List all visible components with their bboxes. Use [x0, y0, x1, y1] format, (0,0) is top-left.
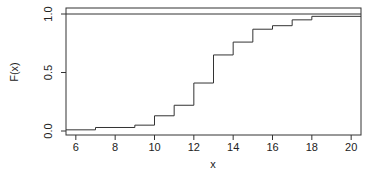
x-tick-label: 6 — [73, 141, 79, 153]
step-series — [66, 16, 361, 129]
x-tick-label: 16 — [266, 141, 278, 153]
y-tick-label: 1.0 — [42, 6, 54, 21]
x-axis-label: x — [210, 158, 216, 170]
y-axis-label: F(x) — [8, 62, 20, 82]
x-tick-label: 12 — [188, 141, 200, 153]
x-tick-label: 10 — [148, 141, 160, 153]
y-axis: 0.00.51.0 — [42, 6, 66, 138]
ecdf-step-chart: 68101214161820 0.00.51.0 x F(x) — [0, 0, 377, 174]
y-tick-label: 0.5 — [42, 65, 54, 80]
x-tick-label: 8 — [112, 141, 118, 153]
y-tick-label: 0.0 — [42, 123, 54, 138]
x-tick-label: 14 — [227, 141, 239, 153]
x-tick-label: 18 — [306, 141, 318, 153]
x-axis: 68101214161820 — [73, 135, 358, 153]
x-tick-label: 20 — [345, 141, 357, 153]
